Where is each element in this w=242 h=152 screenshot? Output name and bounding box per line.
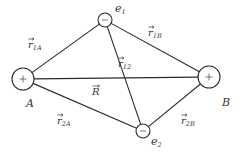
- vector-subscript: 1A: [33, 44, 42, 52]
- vector-symbol: r2A: [57, 115, 71, 128]
- edge-A-e2: [33, 83, 136, 128]
- vector-label-r1B: r1B: [148, 26, 162, 40]
- edge-A-e1: [32, 24, 99, 72]
- node-label-subscript: 2: [157, 141, 162, 149]
- node-label-B: B: [221, 96, 230, 109]
- edges: [32, 23, 201, 128]
- vector-symbol: R: [91, 86, 100, 97]
- vector-label-R: R: [91, 85, 100, 97]
- edge-A-B: [34, 77, 198, 79]
- node-A: [12, 68, 34, 90]
- vector-symbol: r1B: [148, 27, 162, 40]
- vector-subscript: 2B: [185, 120, 195, 128]
- node-label-e2: e2: [151, 135, 162, 149]
- vector-label-r12: r12: [118, 57, 131, 71]
- vector-label-r1A: r1A: [28, 38, 42, 52]
- vector-symbol: r2B: [181, 115, 195, 128]
- node-label-A: A: [25, 97, 34, 110]
- vector-symbol: r12: [118, 58, 131, 71]
- node-e1: [98, 13, 112, 27]
- vector-label-r2B: r2B: [181, 114, 195, 128]
- vector-symbol: r1A: [28, 39, 42, 52]
- node-label-e1: e1: [115, 2, 126, 16]
- vector-label-r2A: r2A: [57, 114, 71, 128]
- vector-subscript: 2A: [61, 120, 71, 128]
- vector-subscript: 12: [123, 63, 131, 71]
- node-label-subscript: 1: [122, 8, 126, 16]
- vector-subscript: 1B: [153, 32, 162, 40]
- edge-e1-e2: [107, 27, 140, 125]
- node-B: [198, 66, 220, 88]
- charge-interaction-diagram: ABe1e2r1Ar1Br12Rr2Ar2B: [0, 0, 242, 152]
- node-e2: [136, 124, 150, 138]
